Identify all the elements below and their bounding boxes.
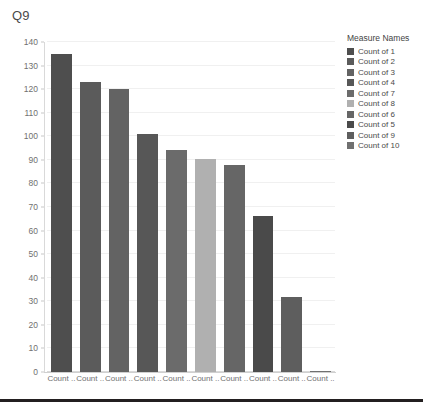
legend-item[interactable]: Count of 5: [347, 120, 419, 130]
legend-swatch-icon: [347, 111, 354, 118]
legend-items: Count of 1Count of 2Count of 3Count of 4…: [347, 46, 419, 151]
legend-item-label: Count of 9: [358, 131, 395, 140]
y-axis-tick-label: 10: [29, 343, 38, 353]
bar-series: [47, 42, 335, 372]
bar-slot: [80, 42, 101, 372]
legend-swatch-icon: [347, 121, 354, 128]
x-axis-line: [44, 372, 336, 373]
legend-item-label: Count of 4: [358, 78, 395, 87]
legend-item-label: Count of 8: [358, 99, 395, 108]
y-axis-tick-label: 20: [29, 320, 38, 330]
legend-swatch-icon: [347, 132, 354, 139]
y-axis-tick-label: 120: [24, 84, 38, 94]
legend-item[interactable]: Count of 2: [347, 57, 419, 67]
bar-slot: [137, 42, 158, 372]
y-axis-tick-label: 0: [33, 367, 38, 377]
legend-item[interactable]: Count of 10: [347, 141, 419, 151]
page-title: Q9: [12, 8, 30, 23]
y-axis-line: [44, 42, 45, 373]
bar[interactable]: [224, 165, 245, 372]
bottom-rule: [0, 399, 423, 402]
legend-item-label: Count of 7: [358, 89, 395, 98]
x-axis-labels: Count ..Count ..Count ..Count ..Count ..…: [47, 374, 335, 390]
legend-item-label: Count of 5: [358, 120, 395, 129]
x-axis-tick-label: Count ..: [105, 374, 134, 383]
y-axis: 0102030405060708090100110120130140: [0, 42, 44, 372]
x-axis-tick-label: Count ..: [277, 374, 306, 383]
legend-swatch-icon: [347, 100, 354, 107]
bar-slot: [166, 42, 187, 372]
legend-item[interactable]: Count of 9: [347, 130, 419, 140]
y-axis-tick-label: 60: [29, 226, 38, 236]
legend-item-label: Count of 10: [358, 141, 399, 150]
bar-slot: [51, 42, 72, 372]
x-axis-tick-label: Count ..: [249, 374, 278, 383]
legend-swatch-icon: [347, 142, 354, 149]
y-axis-tick-label: 30: [29, 296, 38, 306]
legend-swatch-icon: [347, 90, 354, 97]
legend-title: Measure Names: [347, 33, 419, 43]
bar[interactable]: [137, 134, 158, 372]
bar[interactable]: [80, 82, 101, 372]
legend-item-label: Count of 6: [358, 110, 395, 119]
x-axis-tick-label: Count ..: [133, 374, 162, 383]
y-axis-tick-label: 40: [29, 273, 38, 283]
legend-swatch-icon: [347, 79, 354, 86]
bar[interactable]: [166, 150, 187, 372]
y-axis-tick-label: 130: [24, 61, 38, 71]
y-axis-tick-label: 90: [29, 155, 38, 165]
bar-slot: [195, 42, 216, 372]
bar-slot: [109, 42, 130, 372]
bar[interactable]: [51, 54, 72, 372]
legend-item-label: Count of 3: [358, 68, 395, 77]
bar-slot: [310, 42, 331, 372]
legend-item[interactable]: Count of 6: [347, 109, 419, 119]
legend-item[interactable]: Count of 1: [347, 46, 419, 56]
legend-swatch-icon: [347, 48, 354, 55]
legend-item[interactable]: Count of 8: [347, 99, 419, 109]
legend-item[interactable]: Count of 4: [347, 78, 419, 88]
bar[interactable]: [253, 216, 274, 372]
legend-swatch-icon: [347, 69, 354, 76]
y-axis-tick-label: 110: [24, 108, 38, 118]
bar[interactable]: [281, 297, 302, 372]
visualization-canvas: Q9 0102030405060708090100110120130140 Va…: [0, 0, 423, 411]
legend-item-label: Count of 1: [358, 47, 395, 56]
y-axis-tick-label: 100: [24, 131, 38, 141]
legend-item[interactable]: Count of 7: [347, 88, 419, 98]
x-axis-tick-label: Count ..: [162, 374, 191, 383]
x-axis-tick-label: Count ..: [76, 374, 105, 383]
bar-slot: [224, 42, 245, 372]
x-axis-tick-label: Count ..: [306, 374, 335, 383]
plot-area: [47, 42, 335, 372]
y-axis-tick-label: 140: [24, 37, 38, 47]
legend-swatch-icon: [347, 58, 354, 65]
bar-slot: [253, 42, 274, 372]
x-axis-tick-label: Count ..: [191, 374, 220, 383]
y-axis-tick-label: 50: [29, 249, 38, 259]
legend-item-label: Count of 2: [358, 57, 395, 66]
legend: Measure Names Count of 1Count of 2Count …: [347, 33, 419, 151]
y-axis-tick-label: 80: [29, 178, 38, 188]
x-axis-tick-label: Count ..: [220, 374, 249, 383]
bar-slot: [281, 42, 302, 372]
y-axis-tick-label: 70: [29, 202, 38, 212]
x-axis-tick-label: Count ..: [47, 374, 76, 383]
legend-item[interactable]: Count of 3: [347, 67, 419, 77]
bar[interactable]: [195, 159, 216, 372]
bar[interactable]: [109, 89, 130, 372]
